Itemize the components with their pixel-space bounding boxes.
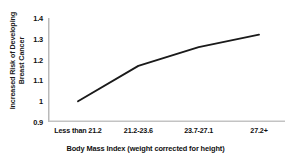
x-axis-tick-label: Less than 21.2	[54, 126, 101, 135]
chart-container: Increased Risk of Developing Breast Canc…	[0, 0, 291, 164]
x-axis-tick-label: 23.7-27.1	[184, 126, 213, 135]
y-axis-tick-label: 1.1	[23, 76, 43, 85]
y-axis-tick-label: 1	[23, 97, 43, 106]
x-axis-tick-label: 27.2+	[250, 126, 267, 135]
y-axis-tick-label: 1.2	[23, 55, 43, 64]
x-axis-tick-labels: Less than 21.221.2-23.623.7-27.127.2+	[48, 126, 285, 140]
x-axis-tick-label: 21.2-23.6	[124, 126, 153, 135]
data-series-line	[78, 35, 259, 102]
y-axis-tick-label: 0.9	[23, 118, 43, 127]
y-axis-tick-labels: 1.41.31.21.110.9	[17, 0, 43, 164]
x-axis-title: Body Mass Index (weight corrected for he…	[0, 144, 291, 153]
chart-svg	[48, 18, 285, 122]
y-axis-tick-label: 1.4	[23, 14, 43, 23]
y-axis-tick-label: 1.3	[23, 34, 43, 43]
plot-area	[48, 18, 285, 122]
